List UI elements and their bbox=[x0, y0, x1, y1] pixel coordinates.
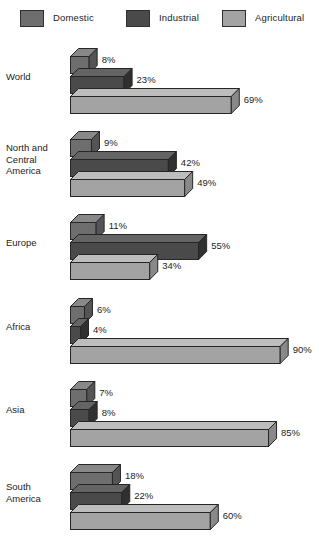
bar-agricultural bbox=[70, 338, 288, 363]
bar-value-label: 18% bbox=[125, 471, 144, 481]
bar-group: North and Central America9%42%49% bbox=[0, 123, 319, 194]
bar-group: Africa6%4%90% bbox=[0, 290, 319, 361]
legend-swatch-industrial bbox=[126, 10, 150, 27]
legend-label-domestic: Domestic bbox=[53, 13, 94, 23]
water-use-bar-chart: Domestic Industrial Agricultural World8%… bbox=[0, 0, 319, 538]
bar-value-label: 49% bbox=[197, 178, 216, 188]
category-label: North and Central America bbox=[6, 142, 48, 177]
legend-swatch-agricultural bbox=[222, 10, 246, 27]
legend-swatch-domestic bbox=[20, 10, 44, 27]
category-label: South America bbox=[6, 481, 41, 504]
category-label: Europe bbox=[6, 237, 37, 249]
legend-label-industrial: Industrial bbox=[159, 13, 199, 23]
legend-item-industrial: Industrial bbox=[126, 8, 199, 28]
bar-group: South America18%22%60% bbox=[0, 456, 319, 527]
bar-value-label: 60% bbox=[223, 511, 242, 521]
bar-value-label: 55% bbox=[211, 241, 230, 251]
bar-agricultural bbox=[70, 504, 218, 529]
bar-value-label: 22% bbox=[134, 491, 153, 501]
bar-value-label: 42% bbox=[181, 158, 200, 168]
bar-value-label: 8% bbox=[102, 55, 116, 65]
bar-group: Asia7%8%85% bbox=[0, 373, 319, 444]
bar-agricultural bbox=[70, 254, 157, 279]
bar-value-label: 69% bbox=[244, 95, 263, 105]
bar-agricultural bbox=[70, 421, 276, 446]
bar-agricultural bbox=[70, 171, 192, 196]
legend-item-agricultural: Agricultural bbox=[222, 8, 304, 28]
bar-value-label: 4% bbox=[93, 325, 107, 335]
chart-legend: Domestic Industrial Agricultural bbox=[0, 0, 319, 34]
bar-value-label: 11% bbox=[109, 221, 127, 231]
legend-label-agricultural: Agricultural bbox=[255, 13, 304, 23]
category-label: Asia bbox=[6, 404, 24, 416]
bar-value-label: 85% bbox=[281, 428, 300, 438]
bar-value-label: 23% bbox=[137, 75, 156, 85]
category-label: World bbox=[6, 71, 31, 83]
bar-value-label: 7% bbox=[99, 388, 113, 398]
chart-plot-area: World8%23%69%North and Central America9%… bbox=[0, 34, 319, 538]
legend-item-domestic: Domestic bbox=[20, 8, 94, 28]
bar-value-label: 8% bbox=[102, 408, 116, 418]
bar-value-label: 34% bbox=[162, 261, 181, 271]
bar-agricultural bbox=[70, 88, 239, 113]
bar-value-label: 9% bbox=[104, 138, 118, 148]
bar-group: Europe11%55%34% bbox=[0, 206, 319, 277]
bar-value-label: 6% bbox=[97, 305, 111, 315]
bar-value-label: 90% bbox=[293, 345, 312, 355]
bar-group: World8%23%69% bbox=[0, 40, 319, 111]
category-label: Africa bbox=[6, 321, 30, 333]
